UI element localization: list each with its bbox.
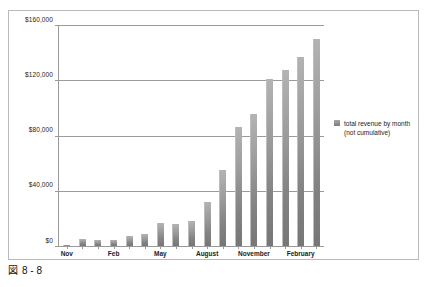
y-axis-tick-mark [55, 191, 58, 192]
y-axis-tick-label: $160,000 [25, 16, 53, 23]
bar-slot [277, 26, 293, 246]
bar[interactable] [188, 221, 195, 246]
bar-slot [153, 26, 169, 246]
bars-layer [59, 26, 324, 246]
figure-caption: 図 8 - 8 [8, 266, 42, 276]
x-axis-tick-mark [285, 247, 286, 249]
bar-slot [121, 26, 137, 246]
x-axis-tick-label: May [154, 251, 167, 258]
bar[interactable] [235, 127, 242, 246]
x-axis-tick-slot [90, 247, 106, 263]
bar[interactable] [204, 202, 211, 246]
y-axis-tick-label: $120,000 [25, 72, 53, 79]
bar-slot [262, 26, 278, 246]
x-axis-ticks: NovFebMayAugustNovemberFebruary [59, 247, 324, 263]
bar[interactable] [313, 39, 320, 246]
x-axis-tick-slot: August [199, 247, 215, 263]
x-axis-tick-mark [114, 247, 115, 249]
bar-slot [293, 26, 309, 246]
figure-marker-icon: 図 [8, 266, 18, 276]
figure-container: $160,000$120,000$80,000$40,000$0 NovFebM… [0, 0, 427, 287]
x-axis-tick-mark [316, 247, 317, 249]
x-axis-tick-slot [75, 247, 91, 263]
x-axis-tick-slot [262, 247, 278, 263]
x-axis-tick-mark [129, 247, 130, 249]
bar[interactable] [126, 236, 133, 246]
chart-frame: $160,000$120,000$80,000$40,000$0 NovFebM… [8, 10, 419, 260]
x-axis-tick-mark [67, 247, 68, 249]
bar[interactable] [219, 170, 226, 246]
x-axis-tick-slot: Feb [106, 247, 122, 263]
x-axis-tick-slot [121, 247, 137, 263]
bar[interactable] [250, 114, 257, 246]
bar[interactable] [282, 70, 289, 246]
chart-legend: total revenue by month (not cumulative) [334, 119, 410, 137]
x-axis-tick-slot: May [153, 247, 169, 263]
x-axis-tick-slot [168, 247, 184, 263]
figure-caption-text: 8 - 8 [22, 266, 42, 276]
legend-item-label: total revenue by month (not cumulative) [344, 119, 410, 137]
legend-swatch-icon [334, 120, 340, 126]
bar-slot [215, 26, 231, 246]
x-axis-tick-slot: Nov [59, 247, 75, 263]
x-axis-tick-mark [254, 247, 255, 249]
bar-slot [309, 26, 325, 246]
x-axis-tick-mark [192, 247, 193, 249]
y-axis-tick-label: $0 [46, 237, 53, 244]
x-axis-tick-label: Feb [108, 251, 120, 258]
bar-slot [59, 26, 75, 246]
x-axis-tick-mark [82, 247, 83, 249]
x-axis-tick-mark [223, 247, 224, 249]
x-axis-tick-mark [145, 247, 146, 249]
y-axis-tick-mark [55, 80, 58, 81]
y-axis-tick-label: $40,000 [29, 182, 53, 189]
bar-slot [231, 26, 247, 246]
x-axis-tick-mark [98, 247, 99, 249]
bar[interactable] [141, 234, 148, 246]
x-axis-tick-mark [160, 247, 161, 249]
x-axis-tick-slot [137, 247, 153, 263]
y-axis-tick-mark [55, 246, 58, 247]
y-axis-tick-mark [55, 136, 58, 137]
bar[interactable] [297, 57, 304, 246]
bar[interactable] [266, 79, 273, 246]
bar[interactable] [110, 240, 117, 246]
y-axis-tick-label: $80,000 [29, 127, 53, 134]
x-axis-tick-mark [207, 247, 208, 249]
bar-slot [246, 26, 262, 246]
x-axis-tick-slot: February [293, 247, 309, 263]
x-axis-tick-slot [215, 247, 231, 263]
bar[interactable] [94, 240, 101, 246]
bar[interactable] [157, 223, 164, 246]
x-axis-tick-label: Nov [61, 251, 73, 258]
bar-slot [199, 26, 215, 246]
bar[interactable] [63, 245, 70, 246]
bar-slot [137, 26, 153, 246]
bar-slot [75, 26, 91, 246]
x-axis-tick-slot [309, 247, 325, 263]
bar-slot [184, 26, 200, 246]
bar-slot [168, 26, 184, 246]
x-axis-tick-mark [301, 247, 302, 249]
x-axis-tick-slot: November [246, 247, 262, 263]
x-axis-tick-mark [238, 247, 239, 249]
y-axis-tick-mark [55, 25, 58, 26]
x-axis-tick-mark [176, 247, 177, 249]
bar[interactable] [79, 239, 86, 246]
bar-slot [106, 26, 122, 246]
x-axis-tick-mark [270, 247, 271, 249]
bar-slot [90, 26, 106, 246]
bar[interactable] [172, 224, 179, 246]
plot-area: $160,000$120,000$80,000$40,000$0 NovFebM… [58, 26, 324, 247]
